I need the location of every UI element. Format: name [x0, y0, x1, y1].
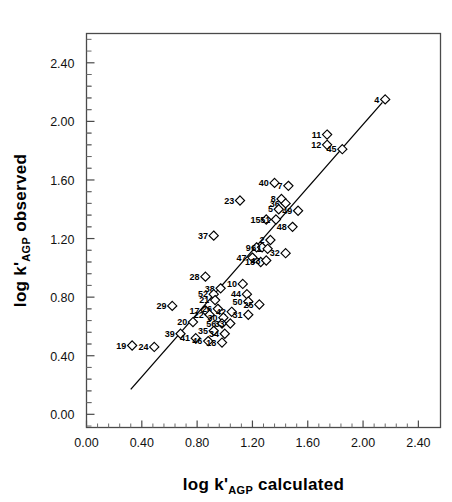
- data-point: 10: [227, 279, 247, 289]
- data-point-label: 15: [250, 215, 260, 225]
- data-point-label: 10: [227, 279, 237, 289]
- y-tick-label: 1.20: [50, 233, 74, 247]
- data-point-marker: [284, 181, 293, 190]
- data-point-marker: [128, 341, 137, 350]
- data-point-marker: [168, 301, 177, 310]
- x-tick-label: 1.60: [296, 436, 320, 450]
- data-point-marker: [242, 290, 251, 299]
- data-point: 23: [224, 196, 244, 206]
- data-point-marker: [209, 231, 218, 240]
- plot-canvas: 0.000.400.801.201.602.002.400.000.400.80…: [0, 0, 452, 502]
- data-point-label: 18: [206, 338, 216, 348]
- data-point: 29: [156, 301, 176, 311]
- data-point-label: 20: [177, 317, 187, 327]
- data-point-label: 41: [180, 333, 190, 343]
- data-point: 48: [277, 222, 297, 232]
- data-point: 25: [244, 300, 264, 310]
- data-point-label: 11: [312, 130, 322, 140]
- data-point-label: 4: [374, 95, 379, 105]
- data-point-label: 28: [190, 272, 200, 282]
- data-point: 45: [327, 144, 347, 154]
- data-point-label: 1: [257, 244, 262, 254]
- y-axis-tick-labels: 0.000.400.801.201.602.002.40: [50, 57, 74, 423]
- data-point: 31: [232, 310, 252, 320]
- data-point: 7: [278, 181, 293, 191]
- y-tick-label: 0.00: [50, 408, 74, 422]
- data-point: 32: [270, 248, 290, 258]
- data-point-label: 35: [198, 326, 208, 336]
- data-point: 40: [259, 178, 279, 188]
- data-point-marker: [255, 300, 264, 309]
- data-point-label: 43: [250, 256, 260, 266]
- x-tick-label: 0.40: [130, 436, 154, 450]
- y-tick-label: 0.40: [50, 350, 74, 364]
- data-point-label: 9: [246, 243, 251, 253]
- data-point-label: 49: [282, 206, 292, 216]
- x-tick-label: 1.20: [240, 436, 264, 450]
- data-point: 19: [116, 341, 136, 351]
- data-point-label: 7: [278, 181, 283, 191]
- data-point-marker: [288, 222, 297, 231]
- data-point: 18: [206, 338, 226, 348]
- data-point-label: 29: [156, 301, 166, 311]
- data-point-label: 50: [232, 297, 242, 307]
- data-point-label: 6: [251, 243, 256, 253]
- data-point-marker: [323, 130, 332, 139]
- data-point-marker: [235, 196, 244, 205]
- y-axis-ticks: [87, 39, 95, 426]
- data-point-label: 31: [232, 310, 242, 320]
- data-point-marker: [238, 279, 247, 288]
- data-point-marker: [216, 284, 225, 293]
- data-point-label: 5: [268, 204, 273, 214]
- data-point: 37: [198, 231, 218, 241]
- x-tick-label: 0.00: [74, 436, 98, 450]
- x-tick-label: 2.40: [406, 436, 430, 450]
- data-point-label: 19: [116, 341, 126, 351]
- data-point-label: 33: [214, 319, 224, 329]
- data-point-marker: [226, 319, 235, 328]
- data-point-label: 22: [194, 310, 204, 320]
- y-tick-label: 2.00: [50, 115, 74, 129]
- plot-frame: [87, 34, 441, 428]
- y-axis-title: log k'AGP observed: [11, 154, 32, 307]
- data-point-label: 23: [224, 196, 234, 206]
- data-point-marker: [266, 235, 275, 244]
- data-point-marker: [217, 338, 226, 347]
- data-point-marker: [281, 249, 290, 258]
- data-point-label: 37: [198, 231, 208, 241]
- data-point-marker: [220, 329, 229, 338]
- data-point: 49: [282, 206, 302, 216]
- x-tick-label: 0.80: [185, 436, 209, 450]
- data-point-marker: [150, 342, 159, 351]
- data-point-label: 12: [311, 140, 321, 150]
- data-point-marker: [244, 310, 253, 319]
- x-axis-tick-labels: 0.000.400.801.201.602.002.40: [74, 436, 430, 450]
- x-tick-label: 2.00: [351, 436, 375, 450]
- data-point-label: 32: [270, 248, 280, 258]
- y-tick-label: 2.40: [50, 57, 74, 71]
- data-point-label: 24: [138, 342, 148, 352]
- data-point-marker: [293, 206, 302, 215]
- data-points: 4111245407836235491551483729613247134328…: [116, 95, 389, 353]
- data-point: 24: [138, 342, 158, 352]
- x-axis-title: log k'AGP calculated: [183, 475, 344, 496]
- x-axis-ticks: [87, 421, 419, 428]
- data-point-label: 51: [260, 215, 270, 225]
- data-point-label: 40: [259, 178, 269, 188]
- data-point-label: 45: [327, 144, 337, 154]
- data-point-label: 39: [165, 329, 175, 339]
- scatter-plot-figure: 0.000.400.801.201.602.002.400.000.400.80…: [0, 0, 452, 502]
- y-tick-label: 1.60: [50, 174, 74, 188]
- data-point-marker: [201, 272, 210, 281]
- data-point-label: 46: [192, 336, 202, 346]
- data-point: 11: [312, 130, 332, 140]
- data-point-label: 25: [244, 300, 254, 310]
- data-point: 28: [190, 272, 210, 282]
- y-tick-label: 0.80: [50, 291, 74, 305]
- data-point-label: 48: [277, 222, 287, 232]
